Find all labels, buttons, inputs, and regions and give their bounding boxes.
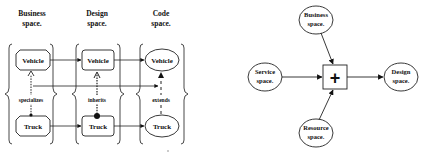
business-space-node: Business space.	[299, 6, 333, 34]
business-truck-node: Truck	[16, 116, 50, 136]
design-vehicle-node: Vehicle	[82, 50, 114, 70]
resource-space-node: Resource space.	[299, 119, 333, 147]
svg-text:Truck: Truck	[89, 123, 107, 131]
svg-text:space.: space.	[22, 19, 41, 28]
svg-text:Vehicle: Vehicle	[22, 57, 44, 65]
code-truck-node: Truck	[145, 115, 179, 137]
svg-text:Truck: Truck	[24, 123, 42, 131]
svg-text:Truck: Truck	[153, 123, 171, 131]
svg-text:specializes: specializes	[19, 97, 43, 103]
extends-relation: extends	[148, 72, 175, 114]
svg-text:Business: Business	[18, 9, 46, 18]
stray-dot	[167, 150, 169, 152]
svg-text:Resource: Resource	[303, 124, 329, 131]
svg-text:extends: extends	[152, 97, 170, 103]
svg-text:space.: space.	[308, 20, 325, 27]
inherits-relation: inherits	[85, 72, 110, 119]
diagram-canvas: Business space. Design space. Code space…	[0, 0, 437, 158]
design-space-node: Design space.	[384, 63, 418, 91]
service-space-node: Service space.	[248, 63, 282, 91]
svg-text:Vehicle: Vehicle	[151, 57, 173, 65]
svg-text:inherits: inherits	[88, 97, 106, 103]
svg-text:Design: Design	[392, 68, 411, 75]
header-code-space: Code space.	[151, 9, 170, 28]
business-vehicle-node: Vehicle	[16, 50, 50, 70]
svg-text:Vehicle: Vehicle	[87, 57, 109, 65]
svg-text:Service: Service	[255, 68, 275, 75]
header-business-space: Business space.	[18, 9, 46, 28]
svg-text:space.: space.	[393, 77, 410, 84]
header-design-space: Design space.	[86, 9, 108, 28]
design-truck-node: Truck	[82, 116, 114, 136]
specializes-relation: specializes	[15, 71, 47, 117]
svg-text:space.: space.	[257, 77, 274, 84]
code-vehicle-node: Vehicle	[145, 49, 179, 71]
svg-text:Design: Design	[86, 9, 108, 18]
svg-text:space.: space.	[151, 19, 170, 28]
svg-text:Business: Business	[304, 11, 328, 18]
svg-text:+: +	[330, 68, 341, 88]
svg-text:space.: space.	[87, 19, 106, 28]
svg-text:Code: Code	[153, 9, 170, 18]
plus-operator-box: +	[323, 65, 347, 89]
svg-text:space.: space.	[308, 133, 325, 140]
